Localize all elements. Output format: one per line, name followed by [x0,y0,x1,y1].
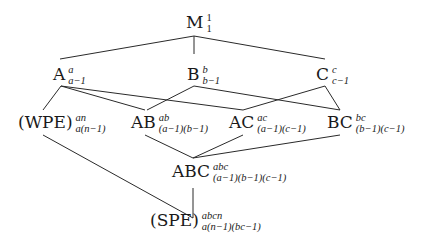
edge-a-wpe [43,86,61,110]
edge-m-a [60,36,194,59]
node-superscript: ac [257,112,267,123]
node-subscript: (a−1)(c−1) [257,123,306,135]
node-subscript: 1 [206,23,211,34]
node-superscript: c [332,64,337,75]
node-subscript: a(n−1)(bc−1) [202,221,262,233]
node-superscript: b [203,64,208,75]
node-subscript: a(n−1) [76,123,106,135]
node-label: (WPE) [18,112,73,132]
node-spe: (SPE)abcna(n−1)(bc−1) [150,210,261,233]
node-subscript: b−1 [203,75,221,86]
node-superscript: bc [356,112,366,123]
node-bc: BCbc(b−1)(c−1) [327,112,405,135]
edge-a-ab [61,86,145,110]
edge-c-ac [243,86,325,110]
node-a: Aaa−1 [52,64,86,86]
node-ab: ABab(a−1)(b−1) [130,112,208,135]
node-b: Bbb−1 [187,64,220,86]
node-label: ABC [171,161,210,181]
node-label: A [52,64,66,84]
node-label: AB [130,112,156,132]
node-superscript: ab [159,112,170,123]
node-label: B [187,64,200,84]
edge-ab-abc [145,135,193,158]
node-superscript: abcn [202,210,222,221]
node-label: M [186,12,203,32]
node-subscript: a−1 [68,75,86,86]
node-label: AC [228,112,254,132]
edge-bc-abc [193,135,340,158]
node-label: C [316,64,329,84]
node-label: (SPE) [150,210,199,230]
node-label: BC [327,112,353,132]
node-ac: ACac(a−1)(c−1) [228,112,306,135]
node-subscript: (a−1)(b−1) [159,123,209,135]
node-subscript: c−1 [332,75,349,86]
node-superscript: an [76,112,87,123]
node-subscript: (a−1)(b−1)(c−1) [213,172,287,184]
lattice-diagram: M11Aaa−1Bbb−1Ccc−1(WPE)ana(n−1)ABab(a−1)… [0,0,423,241]
node-wpe: (WPE)ana(n−1) [18,112,106,135]
node-abc: ABCabc(a−1)(b−1)(c−1) [171,161,287,184]
node-c: Ccc−1 [316,64,349,86]
node-m: M11 [186,12,212,34]
edge-m-c [194,36,325,59]
node-superscript: abc [213,161,229,172]
nodes: M11Aaa−1Bbb−1Ccc−1(WPE)ana(n−1)ABab(a−1)… [18,12,405,233]
node-superscript: 1 [206,12,211,23]
node-subscript: (b−1)(c−1) [356,123,405,135]
edge-c-bc [325,86,340,110]
node-superscript: a [68,64,73,75]
